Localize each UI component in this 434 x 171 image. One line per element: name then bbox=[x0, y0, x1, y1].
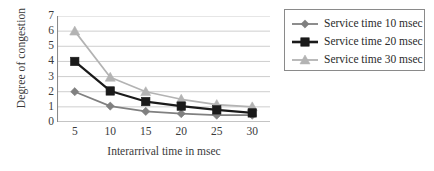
data-point-diamond bbox=[142, 107, 150, 115]
legend-label: Service time 20 msec bbox=[324, 36, 423, 48]
series-line bbox=[75, 31, 253, 107]
y-tick-label: 6 bbox=[38, 25, 54, 37]
legend-item[interactable]: Service time 10 msec bbox=[291, 15, 424, 32]
y-tick-label: 1 bbox=[38, 101, 54, 113]
x-axis-title: Interarrival time in msec bbox=[40, 145, 288, 157]
y-tick-label: 2 bbox=[38, 86, 54, 98]
data-point-square bbox=[301, 37, 309, 45]
y-tick-label: 3 bbox=[38, 71, 54, 83]
data-point-diamond bbox=[301, 19, 309, 27]
x-tick-label: 5 bbox=[62, 126, 88, 138]
data-point-triangle bbox=[70, 26, 80, 35]
series-3 bbox=[70, 26, 258, 111]
y-tick-label: 0 bbox=[38, 116, 54, 128]
legend-swatch-square-icon bbox=[291, 35, 319, 49]
data-point-square bbox=[142, 97, 150, 105]
legend-item[interactable]: Service time 30 msec bbox=[291, 51, 424, 68]
plot-svg bbox=[57, 16, 270, 122]
y-tick-label: 5 bbox=[38, 40, 54, 52]
y-axis-tick-labels: 01234567 bbox=[34, 0, 54, 140]
y-axis-title: Degree of congestion bbox=[15, 0, 27, 123]
x-axis-tick-labels: 51015202530 bbox=[57, 126, 270, 142]
chart-figure: Degree of congestion 01234567 5101520253… bbox=[0, 0, 434, 171]
legend-item[interactable]: Service time 20 msec bbox=[291, 33, 424, 50]
data-point-diamond bbox=[106, 102, 114, 110]
data-point-square bbox=[248, 109, 256, 117]
x-tick-label: 30 bbox=[239, 126, 265, 138]
data-point-square bbox=[106, 87, 114, 95]
legend-label: Service time 10 msec bbox=[324, 18, 423, 30]
legend-label: Service time 30 msec bbox=[324, 54, 423, 66]
legend-swatch-triangle-icon bbox=[291, 53, 319, 67]
data-point-diamond bbox=[177, 110, 185, 118]
data-point-square bbox=[213, 106, 221, 114]
x-tick-label: 25 bbox=[204, 126, 230, 138]
data-point-square bbox=[71, 57, 79, 65]
data-point-diamond bbox=[71, 88, 79, 96]
x-tick-label: 10 bbox=[97, 126, 123, 138]
plot-area bbox=[57, 16, 270, 122]
x-tick-label: 20 bbox=[168, 126, 194, 138]
y-tick-label: 7 bbox=[38, 10, 54, 22]
chart-legend: Service time 10 msecService time 20 msec… bbox=[284, 9, 425, 71]
legend-swatch-diamond-icon bbox=[291, 17, 319, 31]
data-point-square bbox=[177, 102, 185, 110]
series-2 bbox=[71, 57, 257, 117]
y-tick-label: 4 bbox=[38, 55, 54, 67]
x-tick-label: 15 bbox=[133, 126, 159, 138]
